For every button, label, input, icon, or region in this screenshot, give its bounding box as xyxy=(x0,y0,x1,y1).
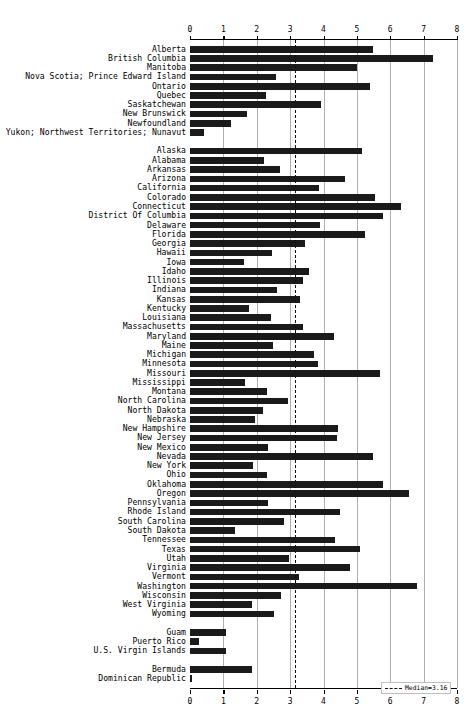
tick-mark-3 xyxy=(290,690,291,694)
legend-label: Median=3.16 xyxy=(405,684,447,692)
tick-label-1: 1 xyxy=(221,697,226,706)
tick-mark-8 xyxy=(457,690,458,694)
category-label: Iowa xyxy=(0,258,186,267)
tick-label-2: 2 xyxy=(254,25,259,34)
category-label: Yukon; Northwest Territories; Nunavut xyxy=(0,128,186,137)
tick-label-6: 6 xyxy=(388,697,393,706)
legend: Median=3.16 xyxy=(381,682,451,694)
tick-label-5: 5 xyxy=(354,25,359,34)
category-label: U.S. Virgin Islands xyxy=(0,646,186,655)
bar-chart: 012345678 012345678 AlbertaBritish Colum… xyxy=(0,0,469,716)
tick-mark-1 xyxy=(223,690,224,694)
tick-label-3: 3 xyxy=(288,697,293,706)
tick-label-7: 7 xyxy=(421,697,426,706)
tick-label-3: 3 xyxy=(288,25,293,34)
category-label: Tennessee xyxy=(0,535,186,544)
tick-mark-4 xyxy=(324,690,325,694)
category-label: Texas xyxy=(0,545,186,554)
tick-label-1: 1 xyxy=(221,25,226,34)
tick-label-8: 8 xyxy=(455,697,460,706)
tick-label-2: 2 xyxy=(254,697,259,706)
tick-label-6: 6 xyxy=(388,25,393,34)
tick-label-8: 8 xyxy=(455,25,460,34)
category-label: New York xyxy=(0,461,186,470)
median-line-swatch-icon xyxy=(385,688,402,689)
tick-label-5: 5 xyxy=(354,697,359,706)
category-label: Maryland xyxy=(0,332,186,341)
category-label: Hawaii xyxy=(0,248,186,257)
tick-label-4: 4 xyxy=(321,25,326,34)
tick-label-0: 0 xyxy=(188,697,193,706)
category-label: Wyoming xyxy=(0,609,186,618)
tick-mark-5 xyxy=(357,690,358,694)
category-labels: AlbertaBritish ColumbiaManitobaNova Scot… xyxy=(0,40,469,688)
tick-mark-2 xyxy=(257,690,258,694)
tick-label-4: 4 xyxy=(321,697,326,706)
tick-mark-0 xyxy=(190,690,191,694)
tick-label-0: 0 xyxy=(188,25,193,34)
category-label: Dominican Republic xyxy=(0,674,186,683)
tick-label-7: 7 xyxy=(421,25,426,34)
